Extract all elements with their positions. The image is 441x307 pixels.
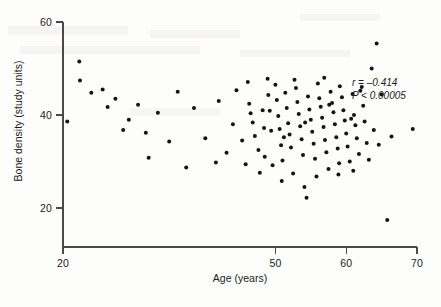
- scatter-point: [301, 153, 305, 157]
- scatter-point: [327, 103, 331, 107]
- scatter-point: [309, 118, 313, 122]
- scatter-point: [377, 143, 381, 147]
- scatter-point: [249, 111, 253, 115]
- scatter-point: [268, 109, 272, 113]
- scatter-point: [351, 169, 355, 173]
- y-tick-label: 40: [30, 109, 52, 121]
- scatter-point: [353, 123, 357, 127]
- scatter-point: [225, 151, 229, 155]
- scatter-point: [278, 127, 282, 131]
- scatter-point: [329, 90, 333, 94]
- x-tick-label: 20: [57, 257, 69, 269]
- scatter-point: [286, 121, 290, 125]
- scatter-point: [275, 98, 279, 102]
- scatter-point: [258, 171, 262, 175]
- y-tick-label: 60: [30, 16, 52, 28]
- data-points: [65, 41, 415, 222]
- scatter-point: [357, 152, 361, 156]
- scatter-point: [346, 145, 350, 149]
- scatter-point: [312, 142, 316, 146]
- x-tick-label: 70: [411, 257, 423, 269]
- scatter-point: [303, 120, 307, 124]
- scatter-point: [300, 137, 304, 141]
- scatter-point: [285, 106, 289, 110]
- scatter-point: [336, 146, 340, 150]
- scatter-point: [276, 114, 280, 118]
- scatter-point: [113, 97, 117, 101]
- scatter-point: [253, 134, 257, 138]
- scatter-point: [322, 125, 326, 129]
- scatter-point: [411, 127, 415, 131]
- y-axis-title: Bone density (study units): [12, 41, 24, 201]
- scatter-point: [262, 126, 266, 130]
- scatter-point: [361, 104, 365, 108]
- scatter-point: [279, 143, 283, 147]
- scatter-point: [313, 157, 317, 161]
- scatter-point: [147, 156, 151, 160]
- scatter-point: [337, 161, 341, 165]
- scatter-point: [283, 91, 287, 95]
- scatter-point: [367, 158, 371, 162]
- scatter-point: [136, 103, 140, 107]
- scatter-point: [65, 120, 69, 124]
- scatter-point: [341, 108, 345, 112]
- scatter-point: [234, 88, 238, 92]
- scatter-point: [214, 160, 218, 164]
- scatter-point: [77, 60, 81, 64]
- r-text: r = –0.414: [352, 77, 397, 88]
- scatter-point: [375, 41, 379, 45]
- scatter-point: [89, 91, 93, 95]
- scatter-point: [244, 162, 248, 166]
- scatter-point: [271, 163, 275, 167]
- scatter-point: [203, 136, 207, 140]
- scatter-point: [331, 110, 335, 114]
- scatter-point: [334, 135, 338, 139]
- scatter-point: [343, 119, 347, 123]
- scatter-point: [306, 94, 310, 98]
- scatter-point: [78, 79, 82, 83]
- scatter-point: [127, 118, 131, 122]
- scatter-point: [167, 140, 171, 144]
- scatter-point: [192, 106, 196, 110]
- x-axis-title: Age (years): [213, 272, 267, 284]
- scatter-point: [293, 78, 297, 82]
- scatter-point: [344, 132, 348, 136]
- scatter-point: [297, 112, 301, 116]
- scatter-point: [280, 159, 284, 163]
- scatter-point: [247, 102, 251, 106]
- scatter-point: [307, 107, 311, 111]
- scatter-point: [101, 87, 105, 91]
- x-tick-label: 50: [269, 257, 281, 269]
- scatter-point: [282, 135, 286, 139]
- scatter-point: [327, 167, 331, 171]
- statistics-annotation: r = –0.414 P < 0.00005: [352, 77, 406, 102]
- scatter-point: [349, 117, 353, 121]
- scatter-point: [156, 111, 160, 115]
- scatter-point: [295, 100, 299, 104]
- scatter-point: [314, 174, 318, 178]
- scatter-point: [294, 86, 298, 90]
- scatter-point: [246, 80, 250, 84]
- scatter-point: [352, 113, 356, 117]
- scatter-point: [231, 122, 235, 126]
- scatter-point: [355, 136, 359, 140]
- p-text: P < 0.00005: [352, 90, 406, 101]
- scatter-point: [333, 122, 337, 126]
- correlation-coefficient-line: r = –0.414: [352, 77, 406, 90]
- p-value-line: P < 0.00005: [352, 90, 406, 103]
- y-tick-label: 20: [30, 202, 52, 214]
- scatter-point: [298, 124, 302, 128]
- scatter-point: [338, 84, 342, 88]
- scatter-point: [372, 128, 376, 132]
- scatter-point: [324, 150, 328, 154]
- scatter-point: [336, 173, 340, 177]
- scatter-point: [305, 196, 309, 200]
- scatter-point: [266, 77, 270, 81]
- scatter-point: [322, 76, 326, 80]
- scatter-point: [323, 138, 327, 142]
- axis-ticks: [56, 22, 417, 254]
- axes: [63, 22, 417, 247]
- scatter-point: [310, 130, 314, 134]
- scatter-point: [240, 139, 244, 143]
- scatter-point: [289, 146, 293, 150]
